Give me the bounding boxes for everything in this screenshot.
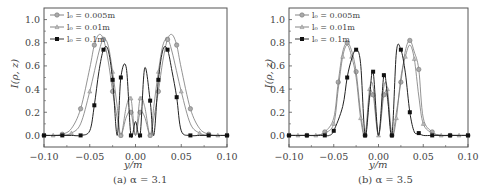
plot-area-a: −0.10−0.050.000.050.100.00.20.40.60.81.0… xyxy=(0,0,242,193)
marker-square xyxy=(225,133,229,137)
marker-square xyxy=(166,48,170,52)
marker-square xyxy=(138,133,142,137)
y-tick-label: 0.2 xyxy=(270,107,285,118)
marker-square xyxy=(175,95,179,99)
legend-entry: l₀ = 0.1m xyxy=(67,35,105,44)
marker-circle xyxy=(188,107,192,111)
x-tick-label: −0.10 xyxy=(274,151,303,162)
marker-square xyxy=(390,133,394,137)
marker-triangle xyxy=(412,57,416,61)
plot-area-b: −0.10−0.050.000.050.100.00.20.40.60.81.0… xyxy=(242,0,484,193)
marker-triangle xyxy=(69,131,73,135)
marker-triangle xyxy=(403,54,407,58)
marker-circle xyxy=(417,67,421,71)
caption-a: (a) α = 3.1 xyxy=(113,174,167,185)
marker-square xyxy=(79,133,83,137)
marker-square xyxy=(323,133,327,137)
y-tick-label: 1.0 xyxy=(25,14,40,25)
marker-circle xyxy=(336,80,340,84)
marker-triangle xyxy=(359,116,363,120)
marker-square xyxy=(60,133,64,137)
marker-square xyxy=(345,76,349,80)
x-tick-label: 0.05 xyxy=(413,151,434,162)
marker-square xyxy=(430,133,434,137)
marker-circle xyxy=(78,107,82,111)
marker-square xyxy=(101,48,105,52)
legend-entry: l₀ = 0.005m xyxy=(312,11,360,20)
marker-square xyxy=(305,133,309,137)
marker-square xyxy=(466,133,470,137)
marker-square xyxy=(417,131,421,135)
marker-square xyxy=(111,78,115,82)
series-line-0 xyxy=(44,34,227,135)
marker-circle xyxy=(174,43,178,47)
y-tick-label: 0.8 xyxy=(270,37,285,48)
marker-square xyxy=(287,133,291,137)
series-line-2 xyxy=(289,44,468,136)
x-axis-label-b: y/m xyxy=(369,159,388,170)
y-tick-label: 0.2 xyxy=(25,107,40,118)
x-tick-label: 0.05 xyxy=(171,151,192,162)
series-line-1 xyxy=(289,45,468,136)
marker-triangle xyxy=(198,131,202,135)
series-line-0 xyxy=(289,40,468,135)
marker-square xyxy=(448,133,452,137)
y-tick-label: 1.0 xyxy=(270,14,285,25)
marker-square xyxy=(371,70,375,74)
caption-b: (b) α = 3.5 xyxy=(358,174,413,185)
marker-square xyxy=(156,78,160,82)
marker-square xyxy=(92,103,96,107)
legend-entry: l₀ = 0.01m xyxy=(312,23,355,32)
chart-panel-b: −0.10−0.050.000.050.100.00.20.40.60.81.0… xyxy=(242,0,484,193)
marker-square xyxy=(408,110,412,114)
x-tick-label: 0.10 xyxy=(457,151,478,162)
marker-square xyxy=(119,76,123,80)
marker-triangle xyxy=(179,89,183,93)
series-line-2 xyxy=(44,46,227,137)
marker-triangle xyxy=(88,89,92,93)
marker-triangle xyxy=(341,54,345,58)
marker-triangle xyxy=(394,116,398,120)
x-tick-label: 0.10 xyxy=(216,151,237,162)
marker-square xyxy=(399,48,403,52)
legend-entry: l₀ = 0.005m xyxy=(67,11,115,20)
chart-panel-a: −0.10−0.050.000.050.100.00.20.40.60.81.0… xyxy=(0,0,242,193)
x-tick-label: −0.10 xyxy=(29,151,58,162)
marker-square xyxy=(129,133,133,137)
y-tick-label: 0.0 xyxy=(270,130,285,141)
marker-square xyxy=(354,48,358,52)
y-axis-label-b: I(ρ, z) xyxy=(263,54,274,94)
marker-square xyxy=(382,73,386,77)
x-tick-label: −0.05 xyxy=(319,151,348,162)
marker-circle xyxy=(399,80,403,84)
y-tick-label: 0.8 xyxy=(25,37,40,48)
marker-square xyxy=(188,133,192,137)
marker-circle xyxy=(408,38,412,42)
x-axis-label-a: y/m xyxy=(124,159,143,170)
y-tick-label: 0.6 xyxy=(25,60,40,71)
legend-entry: l₀ = 0.1m xyxy=(312,35,350,44)
legend-entry: l₀ = 0.01m xyxy=(67,23,110,32)
marker-square xyxy=(207,133,211,137)
x-tick-label: −0.05 xyxy=(75,151,104,162)
y-tick-label: 0.4 xyxy=(25,84,40,95)
marker-square xyxy=(42,133,46,137)
marker-square xyxy=(332,129,336,133)
marker-square xyxy=(148,99,152,103)
y-axis-label-a: I(ρ, z) xyxy=(9,54,20,94)
y-tick-label: 0.0 xyxy=(25,130,40,141)
marker-square xyxy=(363,133,367,137)
